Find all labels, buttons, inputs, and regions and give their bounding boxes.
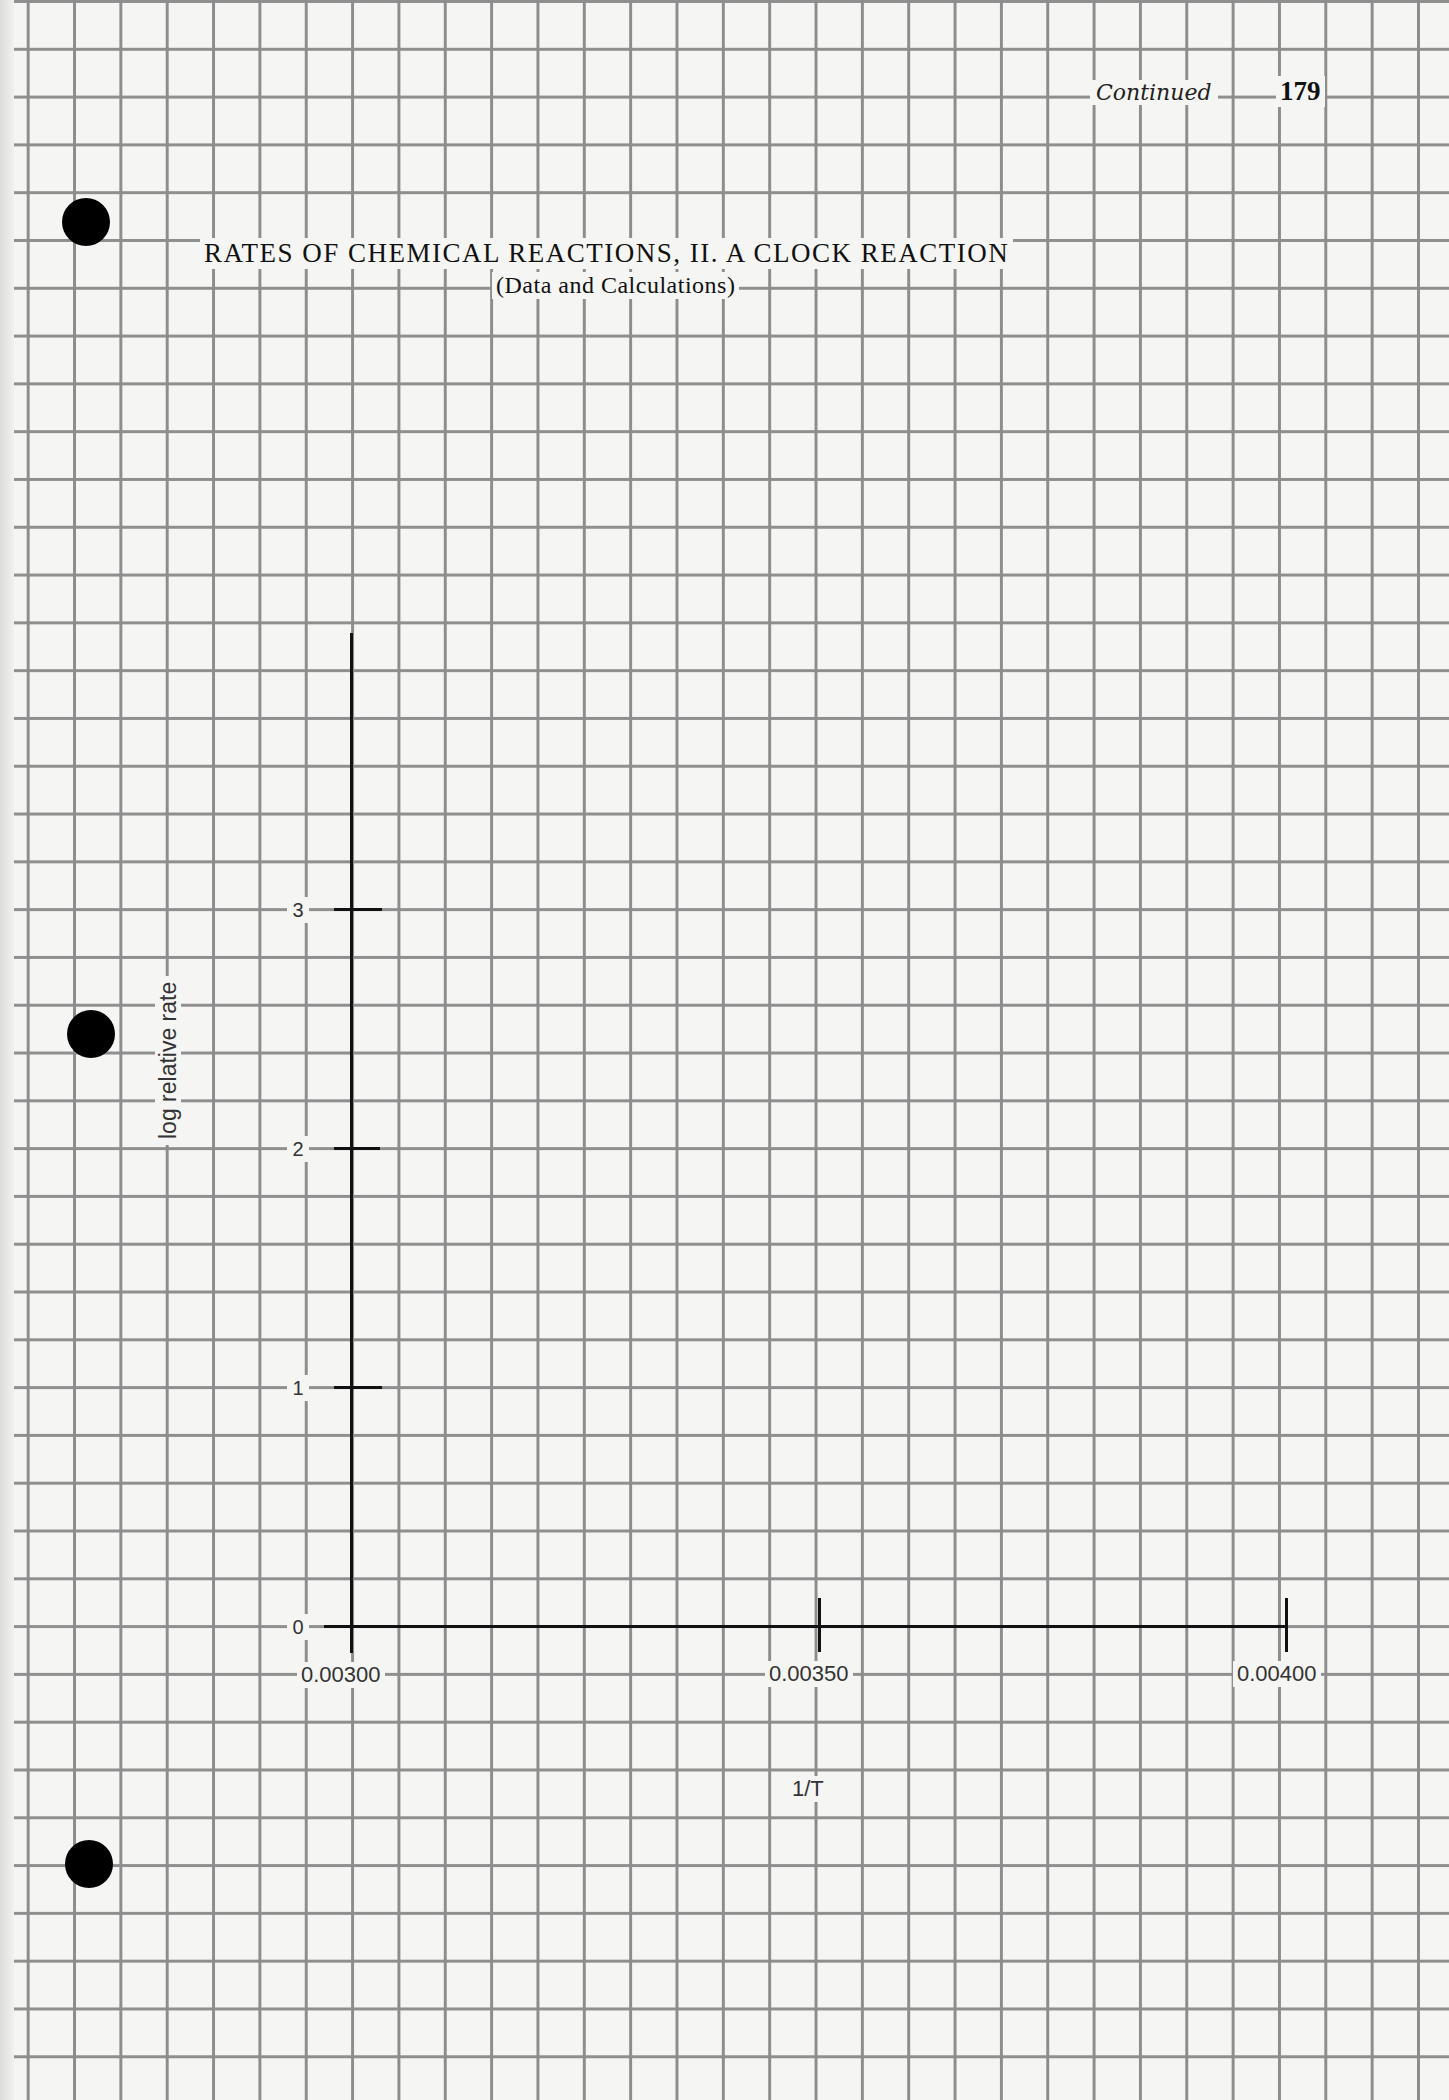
x-axis-title: 1/T xyxy=(788,1776,828,1802)
page-edge xyxy=(0,0,14,2100)
y-tick-label-2: 2 xyxy=(287,1136,309,1162)
x-tick-0.00400 xyxy=(1285,1598,1288,1652)
y-tick-2 xyxy=(334,1147,380,1150)
y-tick-1 xyxy=(334,1386,382,1389)
y-tick-label-1: 1 xyxy=(287,1375,309,1401)
x-tick-label-0.00300: 0.00300 xyxy=(297,1662,385,1688)
binder-hole-top xyxy=(62,198,110,246)
binder-hole-bottom xyxy=(65,1840,113,1888)
running-head: Continued xyxy=(1090,80,1218,105)
page-number: 179 xyxy=(1276,76,1325,107)
y-axis-title: log relative rate xyxy=(155,976,181,1145)
page-title: RATES OF CHEMICAL REACTIONS, II. A CLOCK… xyxy=(200,238,1013,269)
x-axis xyxy=(324,1625,1286,1628)
x-tick-0.00350 xyxy=(818,1598,821,1652)
x-tick-label-0.00400: 0.00400 xyxy=(1233,1661,1321,1687)
grid-paper xyxy=(0,0,1449,2100)
y-axis xyxy=(350,633,353,1653)
y-tick-label-0: 0 xyxy=(287,1614,309,1640)
page-subtitle: (Data and Calculations) xyxy=(492,272,739,299)
y-tick-3 xyxy=(334,908,382,911)
x-tick-label-0.00350: 0.00350 xyxy=(765,1661,853,1687)
binder-hole-middle xyxy=(67,1010,115,1058)
y-tick-label-3: 3 xyxy=(287,897,309,923)
